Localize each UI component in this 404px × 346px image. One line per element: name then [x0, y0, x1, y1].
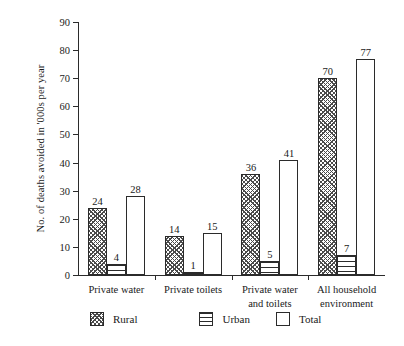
legend: Rural Urban Total: [90, 312, 321, 326]
legend-item-rural: Rural: [90, 312, 137, 326]
category-label-line: environment: [308, 297, 385, 311]
bar-urban: 4: [107, 264, 126, 275]
legend-item-urban: Urban: [199, 312, 250, 326]
y-tick-label: 80: [60, 45, 71, 56]
bar-group: 24428: [88, 22, 145, 275]
bar-urban: 7: [337, 255, 356, 275]
y-tick: [73, 191, 78, 192]
plot-area: 0102030405060708090 24428141153654170777: [78, 22, 385, 276]
bar-value-label: 24: [92, 196, 103, 207]
y-tick-label: 0: [65, 270, 70, 281]
bar-total: 15: [203, 233, 222, 275]
y-tick-label: 90: [60, 17, 71, 28]
y-tick: [73, 22, 78, 23]
bar-group: 36541: [241, 22, 298, 275]
y-axis-title: No. of deaths avoided in '000s per year: [35, 34, 46, 264]
y-tick: [73, 247, 78, 248]
legend-swatch-total-icon: [276, 312, 290, 326]
bar-value-label: 14: [169, 224, 180, 235]
legend-item-total: Total: [276, 312, 321, 326]
bar-total: 77: [356, 59, 375, 275]
y-tick: [73, 134, 78, 135]
bar-value-label: 28: [130, 184, 141, 195]
bar-rural: 24: [88, 208, 107, 275]
category-label-line: All household: [308, 283, 385, 297]
x-tick: [232, 275, 233, 280]
y-tick-label: 70: [60, 73, 71, 84]
y-tick-label: 50: [60, 129, 71, 140]
x-axis-category-label: All householdenvironment: [308, 283, 385, 310]
y-tick: [73, 106, 78, 107]
x-tick: [308, 275, 309, 280]
bar-rural: 70: [318, 78, 337, 275]
bar-value-label: 4: [114, 252, 119, 263]
y-tick-label: 10: [60, 241, 71, 252]
category-label-line: Private water: [232, 283, 309, 297]
y-tick-label: 30: [60, 185, 71, 196]
bar-value-label: 5: [267, 249, 272, 260]
bar-value-label: 15: [207, 221, 218, 232]
x-axis-category-label: Private toilets: [155, 283, 232, 297]
legend-label-total: Total: [299, 313, 321, 325]
bar-total: 41: [279, 160, 298, 275]
y-tick: [73, 163, 78, 164]
bar-total: 28: [126, 196, 145, 275]
bar-value-label: 41: [284, 148, 295, 159]
x-axis-category-label: Private water: [78, 283, 155, 297]
y-tick: [73, 50, 78, 51]
y-tick-label: 40: [60, 157, 71, 168]
legend-label-urban: Urban: [222, 313, 250, 325]
bar-group: 70777: [318, 22, 375, 275]
bar-rural: 14: [165, 236, 184, 275]
x-axis-category-label: Private waterand toilets: [232, 283, 309, 310]
y-tick-label: 60: [60, 101, 71, 112]
y-tick-label: 20: [60, 213, 71, 224]
bar-value-label: 70: [322, 66, 333, 77]
y-tick: [73, 78, 78, 79]
bar-value-label: 7: [344, 243, 349, 254]
bar-group: 14115: [165, 22, 222, 275]
y-axis-line: [78, 22, 79, 276]
bar-rural: 36: [241, 174, 260, 275]
bar-value-label: 36: [246, 162, 257, 173]
bar-value-label: 1: [191, 260, 196, 271]
category-label-line: Private toilets: [155, 283, 232, 297]
y-tick: [73, 275, 78, 276]
x-tick: [155, 275, 156, 280]
category-label-line: and toilets: [232, 297, 309, 311]
category-label-line: Private water: [78, 283, 155, 297]
bar-value-label: 77: [360, 47, 371, 58]
bar-urban: 1: [184, 272, 203, 275]
legend-label-rural: Rural: [113, 313, 137, 325]
bar-urban: 5: [260, 261, 279, 275]
legend-swatch-rural-icon: [90, 312, 104, 326]
legend-swatch-urban-icon: [199, 312, 213, 326]
bar-chart: No. of deaths avoided in '000s per year …: [0, 0, 404, 346]
y-tick: [73, 219, 78, 220]
